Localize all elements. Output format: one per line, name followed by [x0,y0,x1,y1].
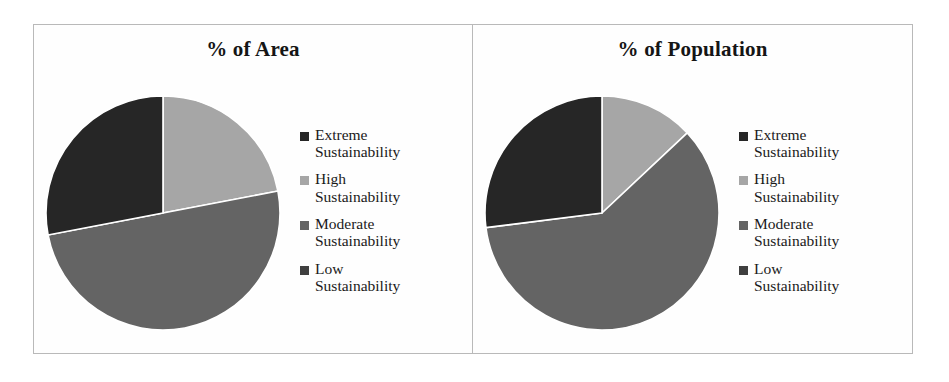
legend-swatch-low-icon [300,266,309,275]
pie-chart-area [34,93,294,333]
legend-item-extreme[interactable]: Extreme Sustainability [300,126,472,161]
figure-root: % of Area Extreme Sustainability High Su… [0,0,949,382]
legend-swatch-high-icon [300,176,309,185]
legend-item-low[interactable]: Low Sustainability [300,260,472,295]
pie-slices-area [46,96,280,330]
legend-label-moderate: Moderate Sustainability [315,215,400,250]
pie-slices-population [485,96,719,330]
legend-label-extreme: Extreme Sustainability [315,126,400,161]
legend-area: Extreme Sustainability High Sustainabili… [294,126,472,301]
legend-swatch-moderate-icon [739,221,748,230]
legend-label-low: Low Sustainability [754,260,839,295]
chart-panel-population: % of Population Extreme Sustainability H… [473,25,912,353]
legend-item-high[interactable]: High Sustainability [300,170,472,205]
legend-swatch-extreme-icon [739,132,748,141]
legend-item-moderate[interactable]: Moderate Sustainability [300,215,472,250]
legend-item-high[interactable]: High Sustainability [739,170,912,205]
chart-frame: % of Area Extreme Sustainability High Su… [33,24,913,354]
pie-svg-area [44,94,284,332]
pie-svg-population [483,94,723,332]
plot-area-population: Extreme Sustainability High Sustainabili… [473,77,912,349]
plot-area-area: Extreme Sustainability High Sustainabili… [34,77,472,349]
pie-chart-population [473,93,733,333]
legend-swatch-moderate-icon [300,221,309,230]
legend-label-high: High Sustainability [315,170,400,205]
pie-slice[interactable] [485,96,602,228]
legend-label-moderate: Moderate Sustainability [754,215,839,250]
pie-slice[interactable] [46,96,163,235]
legend-item-extreme[interactable]: Extreme Sustainability [739,126,912,161]
legend-swatch-high-icon [739,176,748,185]
legend-swatch-extreme-icon [300,132,309,141]
legend-item-moderate[interactable]: Moderate Sustainability [739,215,912,250]
legend-population: Extreme Sustainability High Sustainabili… [733,126,912,301]
legend-label-low: Low Sustainability [315,260,400,295]
chart-title-population: % of Population [473,37,912,62]
legend-swatch-low-icon [739,266,748,275]
legend-label-extreme: Extreme Sustainability [754,126,839,161]
chart-title-area: % of Area [34,37,472,62]
chart-panel-area: % of Area Extreme Sustainability High Su… [34,25,473,353]
legend-label-high: High Sustainability [754,170,839,205]
legend-item-low[interactable]: Low Sustainability [739,260,912,295]
